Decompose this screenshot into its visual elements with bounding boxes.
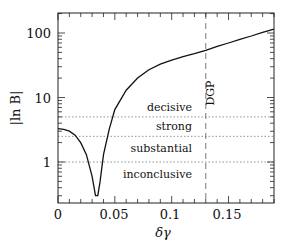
y-axis-label: |ln B| [8, 91, 23, 126]
region-label-inconclusive: inconclusive [123, 168, 192, 181]
x-tick-label-0: 0 [54, 207, 62, 222]
dgp-label: DGP [204, 80, 217, 106]
y-tick-label-1: 1 [43, 155, 51, 170]
region-label-decisive: decisive [147, 101, 192, 114]
x-tick-label-0.05: 0.05 [100, 207, 129, 222]
x-tick-label-0.1: 0.1 [160, 207, 181, 222]
y-tick-label-100: 100 [26, 26, 51, 41]
region-label-substantial: substantial [131, 142, 193, 155]
x-tick-label-0.15: 0.15 [213, 207, 242, 222]
bayes-factor-chart: 100 10 1 0 0.05 0.1 0.15 δγ |ln B| decis… [0, 0, 285, 242]
x-axis-label: δγ [155, 225, 171, 240]
y-tick-label-10: 10 [34, 91, 51, 106]
region-label-strong: strong [156, 120, 192, 133]
